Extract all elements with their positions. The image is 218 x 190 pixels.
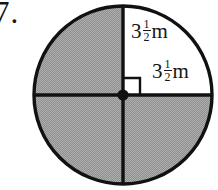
whole-number-horizontal: 3 [152, 61, 163, 82]
whole-number-vertical: 3 [131, 21, 142, 42]
unit-vertical: m [152, 21, 168, 42]
fraction-numerator-horizontal: 1 [164, 58, 172, 70]
circle-diagram [33, 5, 213, 185]
fraction-numerator-vertical: 1 [143, 18, 151, 30]
circle-svg [33, 5, 213, 185]
unit-horizontal: m [173, 61, 189, 82]
fraction-denominator-vertical: 2 [143, 30, 151, 43]
figure-canvas: 7. [0, 0, 218, 190]
mixed-number-horizontal: 3 1 2 m [152, 59, 189, 84]
label-horizontal-radius: 3 1 2 m [152, 59, 189, 84]
fraction-denominator-horizontal: 2 [164, 70, 172, 83]
fraction-horizontal: 1 2 [164, 58, 172, 83]
label-vertical-radius: 3 1 2 m [131, 19, 168, 44]
center-point-dot [117, 89, 128, 100]
fraction-vertical: 1 2 [143, 18, 151, 43]
question-number: 7. [0, 0, 19, 32]
mixed-number-vertical: 3 1 2 m [131, 19, 168, 44]
